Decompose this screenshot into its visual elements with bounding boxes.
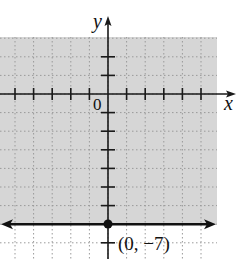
- origin-label: 0: [93, 95, 102, 114]
- point-marker: [104, 220, 113, 229]
- point-label: (0, −7): [118, 233, 170, 255]
- x-axis-label: x: [223, 92, 233, 114]
- graph-figure: y x 0 (0, −7): [0, 0, 238, 259]
- coordinate-plane: y x 0 (0, −7): [0, 0, 238, 259]
- y-axis-label: y: [91, 10, 102, 33]
